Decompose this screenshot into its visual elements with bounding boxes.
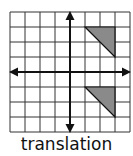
translation-diagram [0, 0, 133, 134]
caption: translation [0, 134, 133, 154]
